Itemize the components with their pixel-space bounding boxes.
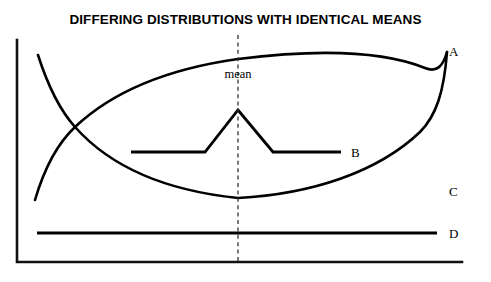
series-label-c: C xyxy=(449,184,458,199)
chart-figure: DIFFERING DISTRIBUTIONS WITH IDENTICAL M… xyxy=(0,0,491,282)
series-label-a: A xyxy=(449,44,459,59)
series-label-d: D xyxy=(449,226,458,241)
curve-b xyxy=(131,110,341,152)
distribution-plot: mean A B C D xyxy=(0,0,491,282)
series-label-b: B xyxy=(351,145,360,160)
mean-label: mean xyxy=(224,67,252,81)
